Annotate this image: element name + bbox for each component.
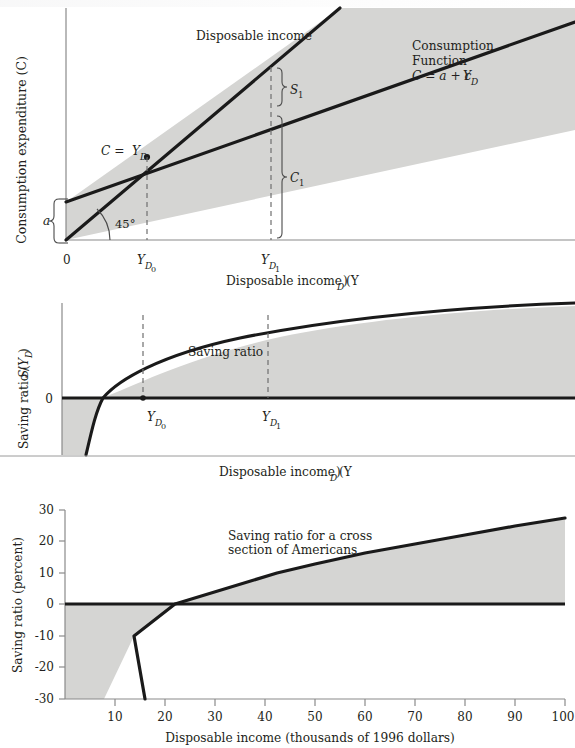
panel1-bracket-a	[49, 199, 59, 243]
panel2-x-axis-label-tail: )	[336, 465, 341, 479]
panel1-tick-yd0: Y D 0	[137, 253, 156, 274]
panel3-y-axis-label: Saving ratio (percent)	[11, 537, 25, 673]
figure-root: Consumption expenditure (C) Disposable i…	[0, 0, 575, 748]
panel3-ytick-1: 20	[39, 534, 54, 548]
panel1-intercept-a-label: a	[43, 214, 50, 228]
panel1-s1-sub: 1	[298, 90, 303, 100]
panel1-x-axis-label: Disposable income (Y D )	[226, 274, 360, 292]
panel3-curve-label-line2: section of Americans	[228, 543, 357, 557]
panel3-xtick-9: 100	[552, 710, 575, 724]
panel3-xtick-3: 40	[257, 710, 272, 724]
panel-1-consumption-function: Consumption expenditure (C) Disposable i…	[0, 0, 575, 292]
panel3-ytick-2: 10	[39, 566, 54, 580]
panel3-ytick-4: -10	[35, 629, 54, 643]
panel2-x-axis-label: Disposable income (Y D )	[219, 465, 353, 483]
panel3-xtick-7: 80	[457, 710, 472, 724]
panel1-45-line-label: Disposable income	[196, 29, 312, 43]
panel-3-cross-section: 30 20 10 0 -10 -20 -30 10 20 30 40 50 60…	[0, 488, 575, 748]
panel3-curve-label-line1: Saving ratio for a cross	[228, 529, 372, 543]
panel1-consumption-eq-sub: D	[470, 77, 478, 87]
panel1-c1-var: C	[290, 171, 299, 185]
panel1-breakeven-pre: C =	[101, 144, 124, 158]
panel3-xtick-8: 90	[507, 710, 522, 724]
panel2-curve-label: Saving ratio	[188, 345, 263, 359]
panel1-angle-label: 45°	[115, 217, 135, 231]
panel1-tick-yd0-sub2: 0	[151, 265, 156, 274]
panel2-shaded-region	[62, 306, 575, 455]
panel2-tick-yd0: Y D 0	[147, 410, 166, 431]
panel1-c1-sub: 1	[299, 178, 304, 188]
panel3-xtick-0: 10	[107, 710, 122, 724]
panel2-breakeven-point	[140, 395, 146, 401]
panel1-x-axis-label-tail: )	[343, 274, 348, 288]
panel3-xtick-2: 30	[207, 710, 222, 724]
panel1-breakeven-sub: D	[139, 152, 147, 162]
panel-2-saving-ratio: Saving ratio ( S / Y D ) 0 Saving ratio …	[0, 293, 575, 493]
panel3-x-axis-label: Disposable income (thousands of 1996 dol…	[165, 731, 455, 745]
panel1-consumption-label-line1: Consumption	[412, 39, 494, 53]
panel3-y-ticks	[59, 510, 65, 699]
panel3-xtick-6: 70	[407, 710, 422, 724]
panel3-xtick-5: 60	[357, 710, 372, 724]
panel1-breakeven-label: C = Y D	[101, 144, 147, 162]
panel1-y-axis-label: Consumption expenditure (C)	[14, 56, 29, 244]
panel1-tick-yd1: Y D 1	[261, 253, 280, 274]
panel2-y-axis-label-post: )	[17, 348, 31, 353]
panel2-tick-yd0-sub2: 0	[161, 422, 166, 431]
panel3-x-ticks	[115, 699, 565, 706]
panel2-zero-label: 0	[45, 392, 53, 406]
panel3-ytick-3: 0	[46, 597, 54, 611]
panel1-shaded-region	[66, 8, 575, 240]
panel3-xtick-4: 50	[307, 710, 322, 724]
panel2-tick-yd1: Y D 1	[262, 410, 281, 431]
panel3-xtick-1: 20	[157, 710, 172, 724]
panel2-y-axis-label: Saving ratio ( S / Y D )	[17, 348, 34, 449]
panel1-consumption-label-line2: Function	[412, 54, 467, 68]
panel1-origin-label: 0	[63, 253, 71, 267]
panel1-s1-var: S	[290, 83, 298, 97]
panel2-tick-yd1-sub2: 1	[276, 422, 281, 431]
panel3-ytick-0: 30	[39, 503, 54, 517]
panel1-tick-yd1-sub2: 1	[275, 265, 280, 274]
panel3-ytick-5: -20	[35, 660, 54, 674]
panel3-ytick-6: -30	[35, 692, 54, 706]
